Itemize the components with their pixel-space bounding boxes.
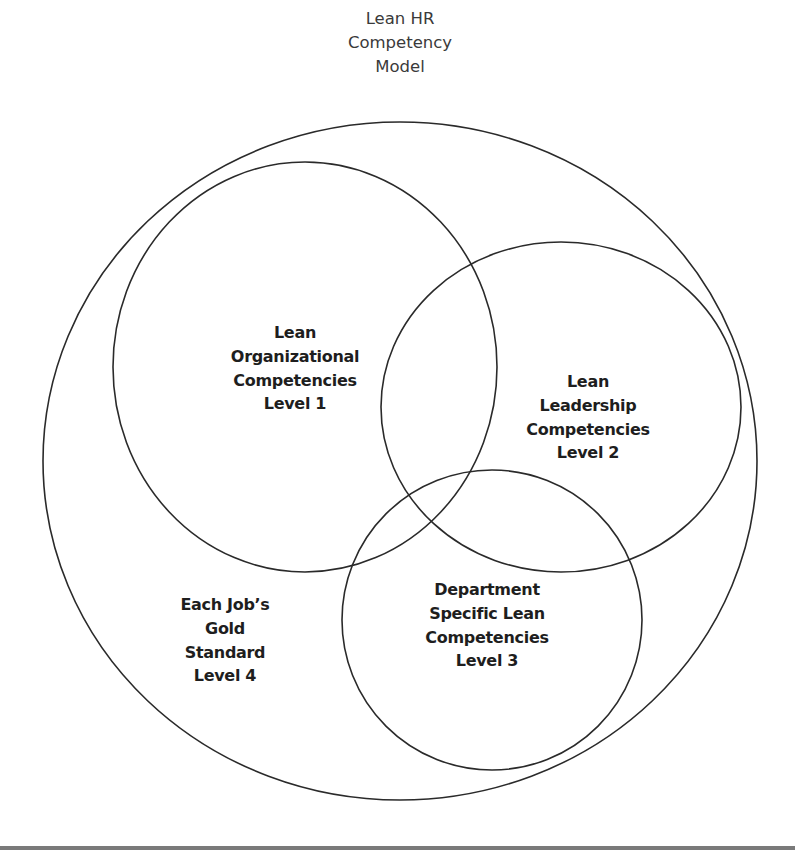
label-level4: Each Job’s Gold Standard Level 4 <box>155 593 295 688</box>
label-line: Competencies <box>397 626 577 650</box>
label-line: Competencies <box>508 418 668 442</box>
label-line: Competencies <box>195 369 395 393</box>
label-line: Leadership <box>508 394 668 418</box>
label-line: Level 2 <box>508 441 668 465</box>
label-line: Level 1 <box>195 392 395 416</box>
label-line: Standard <box>155 641 295 665</box>
label-line: Level 4 <box>155 664 295 688</box>
label-level3: Department Specific Lean Competencies Le… <box>397 578 577 673</box>
diagram-title: Lean HR Competency Model <box>300 7 500 79</box>
title-line: Model <box>300 55 500 79</box>
venn-diagram <box>0 0 795 850</box>
bottom-divider <box>0 846 795 850</box>
label-level1: Lean Organizational Competencies Level 1 <box>195 321 395 416</box>
label-line: Lean <box>195 321 395 345</box>
label-line: Level 3 <box>397 649 577 673</box>
label-line: Gold <box>155 617 295 641</box>
title-line: Lean HR <box>300 7 500 31</box>
label-line: Specific Lean <box>397 602 577 626</box>
label-line: Lean <box>508 370 668 394</box>
label-level2: Lean Leadership Competencies Level 2 <box>508 370 668 465</box>
label-line: Organizational <box>195 345 395 369</box>
title-line: Competency <box>300 31 500 55</box>
label-line: Department <box>397 578 577 602</box>
label-line: Each Job’s <box>155 593 295 617</box>
